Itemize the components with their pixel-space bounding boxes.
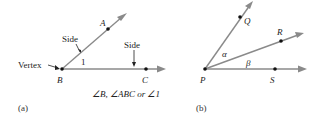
- point-s: [273, 67, 277, 71]
- caption-b: (b): [196, 103, 207, 113]
- point-r: [279, 39, 283, 43]
- figure-b: Q R P S α β (b): [196, 1, 307, 113]
- label-a: A: [99, 18, 106, 28]
- label-q: Q: [244, 16, 251, 26]
- label-r: R: [276, 27, 283, 37]
- arrowhead-pr: [295, 32, 304, 38]
- point-b: [60, 67, 64, 71]
- angle-diagrams: A B C Side Side Vertex 1 ∠B, ∠ABC or ∠1 …: [0, 0, 324, 120]
- angle-notation: ∠B, ∠ABC or ∠1: [92, 89, 160, 99]
- label-side-2: Side: [124, 40, 140, 50]
- label-s: S: [270, 75, 275, 85]
- ray-pr: [205, 35, 298, 69]
- label-angle-1: 1: [81, 57, 86, 67]
- label-beta: β: [245, 58, 251, 68]
- point-a: [106, 27, 110, 31]
- arrowhead-pq: [245, 1, 253, 9]
- label-c: C: [142, 75, 149, 85]
- point-c: [144, 67, 148, 71]
- side-leader-arrow-2: [132, 62, 136, 67]
- label-alpha: α: [222, 49, 227, 59]
- arrowhead-bc: [157, 66, 166, 73]
- label-vertex: Vertex: [18, 60, 42, 70]
- label-side-1: Side: [62, 34, 78, 44]
- ray-pq: [205, 5, 250, 69]
- label-p: P: [199, 75, 206, 85]
- arrowhead-ps: [298, 66, 307, 73]
- vertex-leader-arrow: [55, 65, 60, 70]
- figure-a: A B C Side Side Vertex 1 ∠B, ∠ABC or ∠1 …: [18, 13, 166, 113]
- point-p: [203, 67, 207, 71]
- point-q: [238, 15, 242, 19]
- caption-a: (a): [18, 103, 28, 113]
- label-b: B: [57, 75, 63, 85]
